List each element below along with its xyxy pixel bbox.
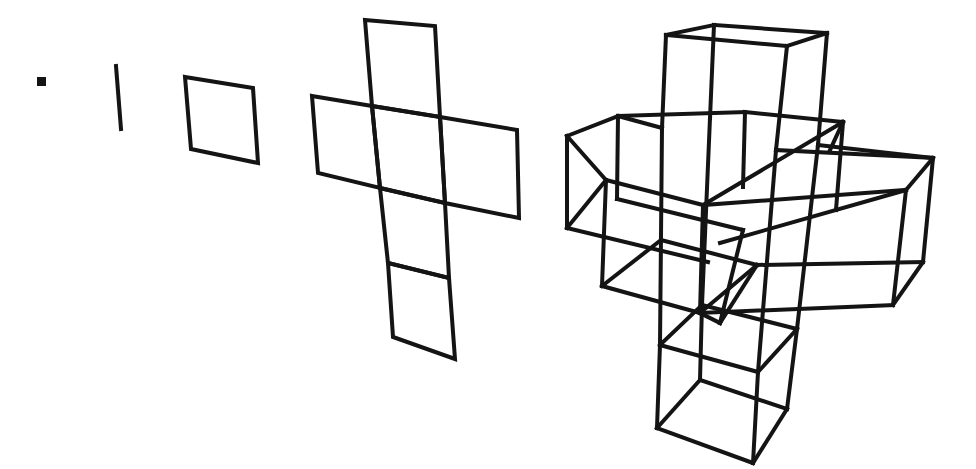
edge-line bbox=[776, 46, 787, 150]
edge-line bbox=[567, 180, 606, 228]
cube-cross-3d-figure bbox=[567, 25, 933, 463]
edge-line bbox=[787, 33, 827, 46]
edge-line bbox=[923, 158, 933, 262]
face-outline bbox=[440, 117, 519, 218]
edge-line bbox=[660, 128, 662, 345]
face-outline bbox=[312, 96, 380, 188]
point-figure bbox=[37, 77, 46, 86]
edge-line bbox=[602, 180, 606, 286]
edge-line bbox=[567, 136, 606, 180]
cross-net-figure bbox=[312, 20, 519, 359]
point-dot bbox=[37, 77, 46, 86]
edge-line bbox=[618, 116, 662, 128]
edge-line bbox=[567, 116, 618, 136]
edge-line bbox=[700, 305, 702, 380]
edge-line bbox=[660, 305, 702, 345]
square-figure bbox=[185, 77, 258, 163]
edge-line bbox=[666, 25, 714, 35]
edge-line bbox=[758, 150, 776, 372]
edge-line bbox=[602, 286, 700, 313]
edge-line bbox=[618, 112, 745, 116]
line-figure bbox=[116, 66, 121, 129]
diagram-canvas bbox=[0, 0, 976, 469]
edge-line bbox=[700, 380, 787, 409]
edge-line bbox=[753, 372, 758, 463]
edge-line bbox=[818, 33, 827, 145]
face-outline bbox=[185, 77, 258, 163]
face-outline bbox=[365, 20, 440, 117]
edge-line bbox=[714, 25, 827, 33]
edge-line bbox=[657, 380, 700, 428]
edge-line bbox=[797, 145, 818, 329]
edge-line bbox=[617, 116, 618, 199]
edge-line bbox=[666, 35, 787, 46]
edge-line bbox=[745, 112, 843, 122]
edge-line bbox=[660, 345, 758, 372]
edge-line bbox=[116, 66, 121, 129]
edge-line bbox=[657, 428, 753, 463]
edge-line bbox=[743, 112, 745, 187]
edge-line bbox=[602, 240, 661, 286]
edge-line bbox=[657, 345, 660, 428]
edge-line bbox=[753, 409, 787, 463]
face-outline bbox=[388, 263, 455, 359]
